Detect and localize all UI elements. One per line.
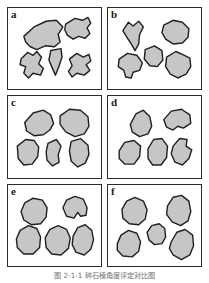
panel-label-f: f	[111, 185, 115, 197]
grain-d5	[171, 139, 191, 165]
grain-d2	[164, 110, 191, 131]
grain-e5	[72, 224, 93, 254]
grain-b1	[123, 21, 143, 50]
grain-f4	[117, 230, 140, 256]
grain-b4	[118, 53, 142, 78]
panel-c-shapes	[8, 96, 101, 177]
grain-e2	[63, 196, 87, 218]
grain-a3	[20, 52, 43, 78]
grain-e1	[21, 198, 47, 224]
panel-label-b: b	[111, 8, 117, 20]
figure-root: a b c	[0, 0, 209, 283]
grain-c2	[60, 110, 89, 137]
panel-f-shapes	[108, 185, 201, 266]
grain-a4	[49, 49, 62, 75]
panel-b-shapes	[108, 8, 201, 89]
grain-a1	[24, 20, 63, 49]
grain-b3	[144, 46, 163, 67]
panel-e[interactable]: e	[7, 184, 102, 267]
panel-label-e: e	[11, 185, 16, 197]
grain-d4	[148, 139, 168, 165]
grain-c3	[17, 140, 38, 166]
grain-b5	[166, 52, 191, 78]
panel-f[interactable]: f	[107, 184, 202, 267]
grain-f5	[169, 229, 193, 259]
figure-caption: 图 2-1-1 碎石棱角度评定对比图	[0, 271, 209, 280]
grain-c1	[25, 111, 54, 137]
grain-b2	[162, 20, 189, 44]
panel-d-shapes	[108, 96, 201, 177]
panel-a-shapes	[8, 8, 101, 89]
grain-c5	[69, 139, 89, 167]
grain-e4	[45, 225, 70, 254]
grain-f1	[122, 197, 147, 224]
grain-d1	[130, 111, 151, 137]
grain-d3	[119, 141, 140, 165]
panel-label-c: c	[11, 96, 16, 108]
panel-label-d: d	[111, 96, 117, 108]
panel-e-shapes	[8, 185, 101, 266]
grain-a5	[68, 53, 90, 77]
grain-a2	[65, 17, 91, 39]
panel-label-a: a	[11, 8, 17, 20]
panel-d[interactable]: d	[107, 95, 202, 178]
grain-c4	[46, 140, 61, 166]
panel-grid: a b c	[7, 7, 202, 267]
grain-f3	[147, 223, 166, 244]
grain-e3	[16, 225, 40, 253]
panel-c[interactable]: c	[7, 95, 102, 178]
panel-b[interactable]: b	[107, 7, 202, 90]
panel-a[interactable]: a	[7, 7, 102, 90]
grain-f2	[167, 195, 191, 225]
